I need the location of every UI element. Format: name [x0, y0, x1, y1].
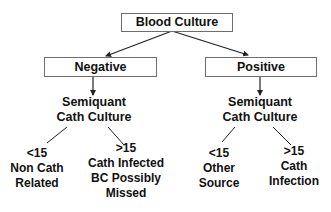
semiquant-line-2: Cath Culture [223, 110, 298, 125]
branch-label-positive: Positive [237, 61, 285, 74]
root-node-blood-culture: Blood Culture [121, 13, 233, 32]
branch-label-negative: Negative [74, 61, 126, 74]
outcome-cath-infected-bc-missed: >15 Cath Infected BC Possibly Missed [88, 141, 164, 201]
outcome-cath-infection: >15 Cath Infection [269, 144, 319, 189]
outcome-threshold: >15 [269, 144, 319, 159]
arrow-root-to-positive [172, 31, 248, 55]
outcome-line-1: Other [199, 161, 240, 176]
semiquant-line-2: Cath Culture [57, 110, 132, 125]
positive-semiquant-node: Semiquant Cath Culture [223, 95, 298, 125]
diagram-canvas: Blood Culture Negative Positive Semiquan… [0, 0, 331, 212]
branch-node-positive: Positive [205, 57, 317, 77]
negative-semiquant-node: Semiquant Cath Culture [57, 95, 132, 125]
line-pos-to-gt15 [273, 127, 291, 145]
outcome-threshold: >15 [88, 141, 164, 156]
outcome-line-2: Source [199, 176, 240, 191]
outcome-line-1: Non Cath [10, 161, 63, 176]
outcome-other-source: <15 Other Source [199, 146, 240, 191]
outcome-non-cath-related: <15 Non Cath Related [10, 146, 63, 191]
outcome-threshold: <15 [199, 146, 240, 161]
outcome-threshold: <15 [10, 146, 63, 161]
outcome-line-3: Missed [88, 186, 164, 201]
root-label: Blood Culture [136, 16, 219, 29]
outcome-line-2: Infection [269, 174, 319, 189]
line-pos-to-lt15 [222, 127, 235, 142]
semiquant-line-1: Semiquant [223, 95, 298, 110]
arrow-root-to-negative [106, 31, 172, 56]
outcome-line-2: BC Possibly [88, 171, 164, 186]
outcome-line-1: Cath [269, 159, 319, 174]
outcome-line-1: Cath Infected [88, 156, 164, 171]
branch-node-negative: Negative [44, 57, 157, 77]
outcome-line-2: Related [10, 176, 63, 191]
semiquant-line-1: Semiquant [57, 95, 132, 110]
line-neg-to-lt15 [47, 127, 67, 143]
